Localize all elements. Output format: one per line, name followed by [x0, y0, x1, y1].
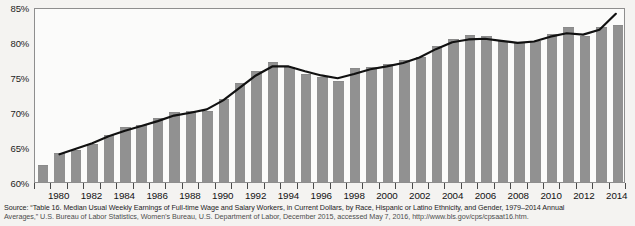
- x-axis-tick-label: 2008: [508, 190, 529, 201]
- x-axis-tick-label: 2002: [409, 190, 430, 201]
- x-axis-tick: [494, 183, 495, 189]
- source-caption: Source: “Table 16. Median Usual Weekly E…: [4, 204, 632, 221]
- x-axis-tick-label: 1996: [311, 190, 332, 201]
- x-axis-tick: [395, 183, 396, 189]
- x-axis-tick: [412, 183, 413, 189]
- x-axis-tick: [198, 183, 199, 189]
- caption-line-2: Averages,” U.S. Bureau of Labor Statisti…: [4, 213, 632, 222]
- x-axis-tick: [527, 183, 528, 189]
- y-axis: 60%65%70%75%80%85%: [0, 0, 34, 191]
- x-axis-tick-label: 1988: [179, 190, 200, 201]
- x-axis-tick-label: 1992: [245, 190, 266, 201]
- x-axis-tick-label: 1990: [212, 190, 233, 201]
- x-axis-tick-label: 1980: [48, 190, 69, 201]
- x-axis-tick: [247, 183, 248, 189]
- y-axis-tick-label: 75%: [11, 73, 29, 84]
- x-axis-tick: [379, 183, 380, 189]
- x-axis-tick: [182, 183, 183, 189]
- y-axis-tick-label: 80%: [11, 38, 29, 49]
- y-axis-tick-label: 85%: [11, 3, 29, 14]
- x-axis-tick-label: 2014: [606, 190, 627, 201]
- x-axis-tick-label: 2004: [442, 190, 463, 201]
- x-axis-tick: [215, 183, 216, 189]
- trend-line-layer: [35, 9, 624, 182]
- plot-area: [34, 8, 625, 183]
- x-axis-tick: [100, 183, 101, 189]
- x-axis-tick: [362, 183, 363, 189]
- x-axis-tick: [346, 183, 347, 189]
- x-axis-tick-label: 2000: [376, 190, 397, 201]
- x-axis-tick: [428, 183, 429, 189]
- x-axis-tick: [116, 183, 117, 189]
- trend-line-svg: [35, 9, 624, 182]
- y-axis-tick-label: 70%: [11, 108, 29, 119]
- x-axis-tick: [543, 183, 544, 189]
- x-axis-tick: [133, 183, 134, 189]
- x-axis-tick: [83, 183, 84, 189]
- x-axis-tick: [165, 183, 166, 189]
- x-axis-tick: [625, 183, 626, 189]
- y-axis-tick-label: 65%: [11, 143, 29, 154]
- x-axis-tick-label: 1982: [81, 190, 102, 201]
- x-axis-tick: [330, 183, 331, 189]
- figure-container: 60%65%70%75%80%85% 198019821984198619881…: [0, 0, 635, 226]
- x-axis-tick: [67, 183, 68, 189]
- x-axis-tick-label: 2010: [540, 190, 561, 201]
- x-axis-tick-label: 1984: [114, 190, 135, 201]
- x-axis-tick-label: 1994: [278, 190, 299, 201]
- x-axis-tick: [231, 183, 232, 189]
- y-axis-tick-label: 60%: [11, 178, 29, 189]
- x-axis-tick: [149, 183, 150, 189]
- x-axis-tick: [313, 183, 314, 189]
- x-axis-tick-label: 1986: [146, 190, 167, 201]
- x-axis-tick: [510, 183, 511, 189]
- x-axis-tick: [592, 183, 593, 189]
- x-axis-tick: [34, 183, 35, 189]
- x-axis-tick: [444, 183, 445, 189]
- x-axis-tick: [576, 183, 577, 189]
- x-axis-tick-label: 1998: [343, 190, 364, 201]
- x-axis-tick: [609, 183, 610, 189]
- trend-line-path: [60, 14, 616, 154]
- x-axis: 1980198219841986198819901992199419961998…: [34, 183, 625, 205]
- x-axis-tick: [461, 183, 462, 189]
- x-axis-tick: [297, 183, 298, 189]
- x-axis-tick: [50, 183, 51, 189]
- x-axis-tick-label: 2006: [475, 190, 496, 201]
- x-axis-tick: [280, 183, 281, 189]
- x-axis-tick-label: 2012: [573, 190, 594, 201]
- x-axis-tick: [559, 183, 560, 189]
- x-axis-tick: [477, 183, 478, 189]
- x-axis-tick: [264, 183, 265, 189]
